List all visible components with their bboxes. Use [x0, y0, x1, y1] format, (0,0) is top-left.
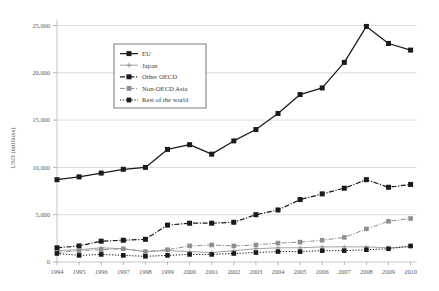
- data-point-marker: [276, 207, 281, 212]
- x-tick-label: 2004: [272, 268, 286, 275]
- data-point-marker: [77, 248, 82, 253]
- data-point-marker: [254, 243, 259, 248]
- data-point-marker: [320, 248, 325, 253]
- y-tick-labels: 05,00010,00015,00020,00025,000: [32, 22, 50, 265]
- y-tick-label: 15,000: [32, 116, 50, 123]
- data-point-marker: [99, 171, 104, 176]
- x-tick-label: 2009: [382, 268, 395, 275]
- y-tick-label: 5,000: [36, 211, 50, 218]
- data-point-marker: [232, 251, 237, 256]
- data-point-marker: [386, 185, 391, 190]
- series-eu: [55, 24, 414, 182]
- x-tick-label: 1997: [117, 268, 131, 275]
- data-point-marker: [99, 239, 104, 244]
- data-point-marker: [143, 254, 148, 259]
- legend-swatch-marker: [127, 86, 132, 91]
- data-point-marker: [386, 41, 391, 46]
- data-point-marker: [231, 138, 236, 143]
- y-axis-title-text: USD (millions): [9, 128, 17, 169]
- gridlines: [57, 26, 417, 215]
- legend-item-label: Rest of the world: [142, 96, 189, 103]
- series-line: [57, 26, 411, 179]
- data-point-marker: [143, 165, 148, 170]
- data-point-marker: [231, 220, 236, 225]
- x-tick-label: 2005: [294, 268, 307, 275]
- chart-legend[interactable]: EUJapanOther OECDNon-OECD AsiaRest of th…: [114, 44, 206, 108]
- data-point-marker: [298, 92, 303, 97]
- data-point-marker: [187, 142, 192, 147]
- data-point-marker: [298, 197, 303, 202]
- data-point-marker: [408, 216, 413, 221]
- data-point-marker: [364, 24, 369, 29]
- data-point-marker: [121, 238, 126, 243]
- data-point-marker: [165, 247, 170, 252]
- y-tick-label: 10,000: [32, 164, 50, 171]
- series-line: [57, 180, 411, 248]
- data-point-marker: [408, 48, 413, 53]
- y-tick-label: 20,000: [32, 69, 50, 76]
- legend-item-label: EU: [142, 50, 151, 57]
- data-point-marker: [165, 253, 170, 258]
- data-point-marker: [408, 244, 413, 249]
- data-point-marker: [320, 238, 325, 243]
- legend-item-label: Other OECD: [142, 73, 177, 80]
- series-lines: [55, 24, 414, 259]
- x-tick-label: 2002: [227, 268, 240, 275]
- data-point-marker: [209, 243, 214, 248]
- data-point-marker: [77, 253, 82, 258]
- data-point-marker: [143, 249, 148, 254]
- legend-swatch-marker: [127, 51, 132, 56]
- y-axis-title: USD (millions): [9, 128, 17, 169]
- data-point-marker: [298, 249, 303, 254]
- data-point-marker: [253, 127, 258, 132]
- data-point-marker: [298, 240, 303, 245]
- chart-canvas: 05,00010,00015,00020,00025,000 199419951…: [0, 0, 439, 291]
- data-point-marker: [386, 219, 391, 224]
- x-tick-labels: 1994199519961997199819992000200120022003…: [51, 268, 417, 275]
- data-point-marker: [364, 247, 369, 252]
- legend-swatch-marker: [127, 74, 132, 79]
- series-other-oecd: [55, 177, 414, 250]
- data-point-marker: [408, 182, 413, 187]
- data-point-marker: [253, 212, 258, 217]
- line-chart: 05,00010,00015,00020,00025,000 199419951…: [0, 0, 439, 291]
- data-point-marker: [165, 147, 170, 152]
- x-tick-label: 1994: [51, 268, 65, 275]
- data-point-marker: [232, 244, 237, 249]
- data-point-marker: [143, 237, 148, 242]
- data-point-marker: [342, 248, 347, 253]
- x-tick-label: 2010: [404, 268, 417, 275]
- x-tick-label: 1998: [139, 268, 152, 275]
- data-point-marker: [276, 249, 281, 254]
- data-point-marker: [342, 235, 347, 240]
- data-point-marker: [77, 243, 82, 248]
- y-tick-label: 25,000: [32, 22, 50, 29]
- data-point-marker: [209, 252, 214, 257]
- data-point-marker: [187, 244, 192, 249]
- data-point-marker: [187, 252, 192, 257]
- data-point-marker: [209, 221, 214, 226]
- y-tick-label: 0: [47, 258, 50, 265]
- x-tick-label: 2003: [250, 268, 263, 275]
- data-point-marker: [254, 250, 259, 255]
- x-tick-label: 1999: [161, 268, 174, 275]
- data-point-marker: [386, 246, 391, 251]
- data-point-marker: [364, 177, 369, 182]
- data-point-marker: [187, 221, 192, 226]
- data-point-marker: [99, 247, 104, 252]
- x-tick-label: 2001: [205, 268, 218, 275]
- legend-swatch-marker: [127, 98, 132, 103]
- data-point-marker: [276, 241, 281, 246]
- data-point-marker: [320, 85, 325, 90]
- data-point-marker: [55, 251, 60, 256]
- data-point-marker: [99, 252, 104, 257]
- x-tick-label: 1996: [95, 268, 108, 275]
- data-point-marker: [121, 246, 126, 251]
- legend-item-label: Non-OECD Asia: [142, 85, 188, 92]
- data-point-marker: [320, 191, 325, 196]
- data-point-marker: [342, 60, 347, 65]
- data-point-marker: [342, 186, 347, 191]
- x-tick-label: 2006: [316, 268, 329, 275]
- x-tick-label: 2000: [183, 268, 196, 275]
- x-tick-label: 2008: [360, 268, 373, 275]
